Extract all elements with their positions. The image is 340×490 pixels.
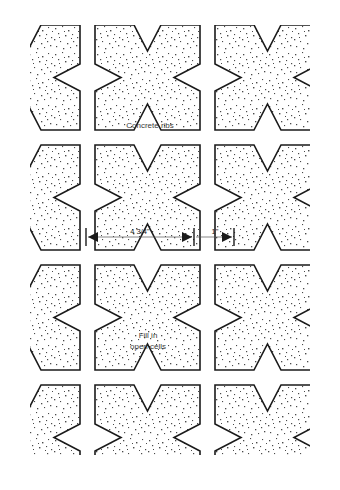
concrete-ribs-label: Concrete ribs bbox=[126, 121, 174, 130]
rib-block bbox=[95, 25, 200, 130]
fill-open-cells-label-line1: Fill in bbox=[139, 331, 158, 340]
rib-block bbox=[0, 265, 80, 370]
rib-block-row-3 bbox=[0, 265, 320, 370]
fill-open-cells-label-line2: open cells bbox=[130, 342, 166, 351]
concrete-rib-pattern-svg: Concrete ribs Fill in open cells 4 3/4" … bbox=[0, 0, 340, 490]
rib-block bbox=[215, 265, 320, 370]
rib-block-row-4 bbox=[0, 385, 320, 490]
dimension-rib-gap-text: 1" bbox=[212, 227, 219, 236]
dimension-block-width-text: 4 3/4" bbox=[130, 227, 150, 236]
rib-block bbox=[95, 265, 200, 370]
rib-block bbox=[0, 145, 80, 250]
rib-block bbox=[215, 385, 320, 490]
rib-block bbox=[95, 0, 200, 10]
diagram-canvas: Concrete ribs Fill in open cells 4 3/4" … bbox=[0, 0, 340, 490]
rib-block bbox=[0, 0, 80, 10]
rib-block-row-2 bbox=[0, 145, 320, 250]
rib-block bbox=[215, 25, 320, 130]
rib-block bbox=[215, 0, 320, 10]
rib-block-row-0 bbox=[0, 0, 320, 10]
rib-block bbox=[0, 25, 80, 130]
rib-tiling bbox=[0, 0, 320, 490]
rib-block bbox=[215, 145, 320, 250]
rib-block bbox=[95, 385, 200, 490]
rib-block-row-1 bbox=[0, 25, 320, 130]
rib-block bbox=[0, 385, 80, 490]
